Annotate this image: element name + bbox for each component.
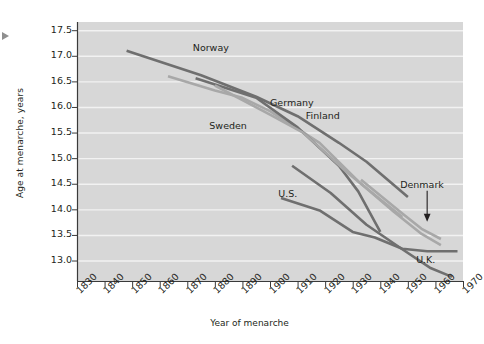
x-tick-label: 1920 (322, 271, 347, 296)
x-tick-label: 1940 (377, 271, 402, 296)
x-axis-title-text: Year of menarche (210, 318, 289, 328)
x-tick-label: 1860 (156, 271, 181, 296)
series-label-finland: Finland (306, 110, 340, 121)
x-tick-label: 1910 (294, 271, 319, 296)
x-tick-label: 1970 (460, 271, 484, 296)
x-tick-label: 1840 (101, 271, 126, 296)
x-axis-title: Year of menarche (0, 318, 475, 328)
x-tick-label: 1930 (349, 271, 374, 296)
series-label-sweden: Sweden (209, 120, 247, 131)
annotation-label-denmark: Denmark (400, 179, 444, 190)
series-label-germany: Germany (270, 97, 314, 108)
x-tick-label: 1830 (74, 271, 99, 296)
x-tick-label: 1880 (211, 271, 236, 296)
x-tick-label: 1890 (239, 271, 264, 296)
x-tick-label: 1900 (267, 271, 292, 296)
series-label-uk: U.K. (416, 254, 435, 265)
series-label-norway: Norway (193, 42, 229, 53)
x-tick-label: 1850 (129, 271, 154, 296)
x-tick-label: 1870 (184, 271, 209, 296)
y-axis-title: Age at menarche, years (15, 83, 25, 203)
x-tick-label: 1950 (404, 271, 429, 296)
x-tick-label: 1960 (432, 271, 457, 296)
series-label-us: U.S. (278, 188, 297, 199)
